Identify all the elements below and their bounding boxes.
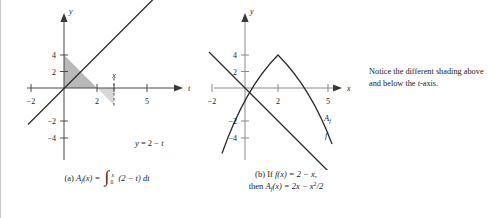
curve-f-line [209,52,334,170]
curve-label-Af-sub: f [329,118,331,124]
plot-a: −2 2 5 4 2 −2 −4 t y x [7,0,207,170]
tick-label-x-2: 2 [276,97,280,106]
integral-lower-limit: 0 [110,178,113,186]
tick-label-y--4: −4 [47,134,56,143]
axis-label-y: y [68,7,73,16]
x-axis-arrow [333,84,342,91]
curve-label-Af: Af [324,113,331,124]
caption-b-line2-rest: (x) = 2x − x [272,181,313,191]
side-note: Notice the different shading above and b… [369,66,489,91]
axis-label-t: t [188,84,191,93]
tick-label-y-4: 4 [52,51,56,60]
caption-a-integrand: (2 − t) dt [119,173,150,183]
panel-b: −2 2 5 4 2 −2 −4 x y Af f (b) If f(x) = … [206,0,366,218]
tick-label-x--2: −2 [208,97,217,106]
caption-b-line2-prefix: then [249,181,264,191]
tick-label-y-2: 2 [52,68,56,77]
axis-label-x: x [346,84,351,93]
line-equation-label: y = 2 − t [135,138,164,148]
t-axis-arrow [174,84,183,91]
caption-b-line1-rest: (x) = 2 − x, [277,169,317,179]
tick-label-y--2: −2 [228,117,237,126]
shade-below-axis [97,88,114,105]
caption-b: (b) If f(x) = 2 − x, then Af(x) = 2x − x… [206,168,366,194]
integral-symbol-a: ∫ x 0 [102,174,116,183]
curve-label-f-base: f [325,130,327,140]
panel-a: −2 2 5 4 2 −2 −4 t y x y = 2 − t (a) Af(… [7,0,207,218]
tick-label-x-5: 5 [326,97,330,106]
tick-label-y--4: −4 [228,134,237,143]
tick-label-x-5: 5 [145,97,149,106]
axis-label-y: y [249,7,254,16]
tick-label-x--2: −2 [27,97,36,106]
y-axis-arrow [241,13,248,22]
caption-a-arg: (x) = [83,173,100,183]
caption-a-prefix: (a) [64,173,73,183]
tick-label-y--2: −2 [47,117,56,126]
tick-label-y-2: 2 [233,68,237,77]
caption-a: (a) Af(x) = ∫ x 0 (2 − t) dt [7,172,207,185]
figure-container: −2 2 5 4 2 −2 −4 t y x y = 2 − t (a) Af(… [0,0,493,218]
caption-b-line2-tail: /2 [317,181,324,191]
caption-b-line1: (b) If f(x) = 2 − x, [206,168,366,180]
side-note-part2: -axis. [420,79,438,88]
line-y-equals-2-minus-t [28,0,157,125]
x-marker-label: x [111,71,116,80]
tick-label-y-4: 4 [233,51,237,60]
caption-b-prefix: (b) If [255,169,273,179]
curve-label-f: f [325,130,327,140]
caption-b-line2: then Af(x) = 2x − x2/2 [206,180,366,193]
tick-label-x-2: 2 [95,97,99,106]
y-axis-arrow [60,13,67,22]
plot-b: −2 2 5 4 2 −2 −4 x y [206,0,366,170]
